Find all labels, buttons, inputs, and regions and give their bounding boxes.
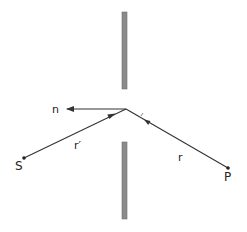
- r-arrowhead: [144, 120, 151, 126]
- upper-screen: [122, 12, 127, 89]
- label-r-prime: r′: [74, 139, 82, 152]
- r-line: [126, 109, 228, 168]
- label-p: P: [224, 170, 231, 184]
- label-s: S: [15, 159, 23, 173]
- diffraction-diagram: n r′ r S P: [0, 0, 247, 232]
- lower-screen: [122, 142, 127, 219]
- point-s-dot: [22, 156, 26, 160]
- label-r: r: [178, 151, 183, 164]
- r-prime-arrowhead: [107, 114, 115, 120]
- label-n: n: [52, 103, 59, 116]
- tick-mark: [141, 113, 143, 116]
